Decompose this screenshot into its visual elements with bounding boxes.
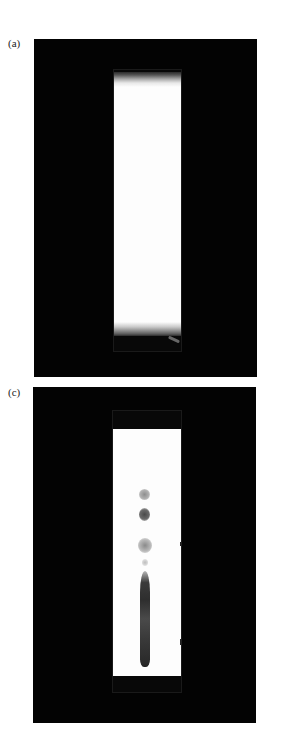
panel-a-image (34, 39, 257, 377)
spot-1 (139, 489, 150, 500)
developed-strip (113, 429, 181, 676)
blank-strip (114, 72, 181, 336)
panel-a-label: (a) (8, 38, 20, 49)
edge-speck (180, 639, 182, 645)
spot-4 (142, 559, 148, 566)
panel-c-label: (c) (8, 387, 20, 398)
panel-c-image (33, 387, 256, 723)
spot-2 (139, 508, 150, 521)
streak (140, 571, 150, 667)
spot-3 (138, 538, 152, 553)
edge-speck (180, 542, 182, 546)
